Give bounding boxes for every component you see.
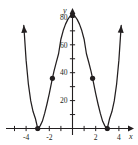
x-axis: -4-224 x xyxy=(6,126,134,142)
data-point-marker xyxy=(35,126,40,131)
data-point-marker xyxy=(50,76,55,81)
y-tick-label: 20 xyxy=(60,96,68,105)
x-axis-arrowhead xyxy=(128,126,134,132)
x-tick-label: -2 xyxy=(46,133,53,142)
graph-canvas: -4-224 x 20406080 y xyxy=(0,0,138,145)
y-tick-label: 40 xyxy=(60,68,68,77)
x-tick-label: 2 xyxy=(94,133,98,142)
data-point-marker xyxy=(105,126,110,131)
curve-left-arrowhead xyxy=(21,25,27,33)
data-point-marker xyxy=(70,13,75,18)
x-tick-label: 4 xyxy=(117,133,121,142)
data-point-marker xyxy=(90,76,95,81)
curve-right-arrowhead xyxy=(118,25,124,33)
y-axis-label: y xyxy=(62,6,67,15)
graph-figure: -4-224 x 20406080 y xyxy=(0,0,138,145)
y-axis: 20406080 y xyxy=(60,6,75,135)
y-axis-tick-labels: 20406080 xyxy=(60,13,68,106)
x-tick-label: -4 xyxy=(23,133,30,142)
x-axis-label: x xyxy=(128,132,133,141)
